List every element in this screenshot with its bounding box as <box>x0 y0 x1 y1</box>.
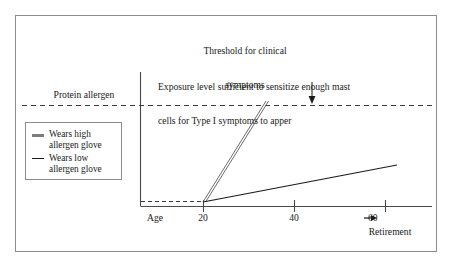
legend-label-high-allergen: Wears high allergen glove <box>49 129 102 151</box>
chart-annotation: Exposure level sufficient to sensitize e… <box>158 58 390 149</box>
x-tick-label-40: 40 <box>274 212 314 223</box>
chart-title-line1: Threshold for clinical <box>155 45 335 56</box>
legend-label-low-line1: Wears low <box>49 153 88 163</box>
legend: Wears high allergen glove Wears low alle… <box>25 122 122 180</box>
legend-label-low-line2: allergen glove <box>49 164 102 174</box>
chart-annotation-line2: cells for Type I symptoms to apper <box>158 115 390 126</box>
legend-swatch-low-allergen-icon <box>32 158 44 159</box>
legend-label-high-line1: Wears high <box>49 129 91 139</box>
legend-item-wears-high-allergen-glove: Wears high allergen glove <box>32 129 122 151</box>
series-line-low-allergen <box>203 165 397 202</box>
legend-item-wears-low-allergen-glove: Wears low allergen glove <box>32 153 122 175</box>
chart-annotation-line1: Exposure level sufficient to sensitize e… <box>158 81 390 92</box>
y-axis-label-line1: Protein allergen <box>28 89 140 100</box>
x-tick-label-60: 60 <box>368 212 412 223</box>
figure-root: Threshold for clinical symptoms Exposure… <box>0 0 451 268</box>
x-axis-name: Age <box>135 212 175 223</box>
legend-swatch-high-allergen-icon <box>32 134 44 137</box>
x-tick-label-20: 20 <box>183 212 223 223</box>
legend-label-low-allergen: Wears low allergen glove <box>49 153 102 175</box>
retirement-label: Retirement <box>355 226 425 237</box>
legend-label-high-line2: allergen glove <box>49 140 102 150</box>
